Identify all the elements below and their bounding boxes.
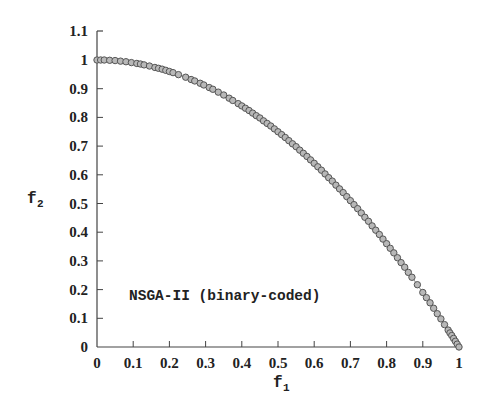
x-tick-label: 0.8: [377, 355, 396, 371]
x-tick-label: 0.1: [124, 355, 143, 371]
algorithm-annotation: NSGA-II (binary-coded): [129, 288, 320, 304]
data-point: [414, 282, 420, 288]
x-tick-label: 1: [455, 355, 463, 371]
data-point: [409, 274, 415, 280]
x-axis-title-sub: 1: [283, 382, 290, 394]
y-axis-title-sub: 2: [37, 198, 44, 210]
x-axis-title-main: f: [273, 374, 283, 392]
x-tick-label: 0.3: [196, 355, 215, 371]
y-tick-label: 1.1: [69, 23, 88, 39]
x-tick-label: 0: [93, 355, 101, 371]
y-tick-label: 0.3: [69, 253, 88, 269]
pareto-front-chart: 00.10.20.30.40.50.60.70.80.911.1 00.10.2…: [0, 0, 491, 418]
solution-points: [94, 57, 462, 350]
x-ticks: 00.10.20.30.40.50.60.70.80.91: [93, 341, 463, 371]
y-tick-label: 0: [81, 339, 89, 355]
data-point: [175, 71, 181, 77]
y-tick-label: 0.1: [69, 310, 88, 326]
y-tick-label: 0.2: [69, 282, 88, 298]
x-tick-label: 0.2: [160, 355, 179, 371]
data-point: [438, 316, 444, 322]
y-tick-label: 0.9: [69, 81, 88, 97]
plot-area: 00.10.20.30.40.50.60.70.80.911.1 00.10.2…: [69, 23, 463, 371]
data-point: [456, 344, 462, 350]
y-ticks: 00.10.20.30.40.50.60.70.80.911.1: [69, 23, 103, 355]
x-tick-label: 0.9: [413, 355, 432, 371]
y-tick-label: 0.5: [69, 196, 88, 212]
x-axis-title: f 1: [273, 374, 290, 394]
y-tick-label: 1: [81, 52, 89, 68]
x-tick-label: 0.4: [232, 355, 251, 371]
x-tick-label: 0.5: [269, 355, 288, 371]
x-tick-label: 0.6: [305, 355, 324, 371]
x-tick-label: 0.7: [341, 355, 360, 371]
y-tick-label: 0.8: [69, 109, 88, 125]
y-tick-label: 0.6: [69, 167, 88, 183]
y-tick-label: 0.4: [69, 224, 88, 240]
y-tick-label: 0.7: [69, 138, 88, 154]
y-axis-title-main: f: [27, 190, 37, 208]
y-axis-title: f 2: [27, 190, 44, 210]
